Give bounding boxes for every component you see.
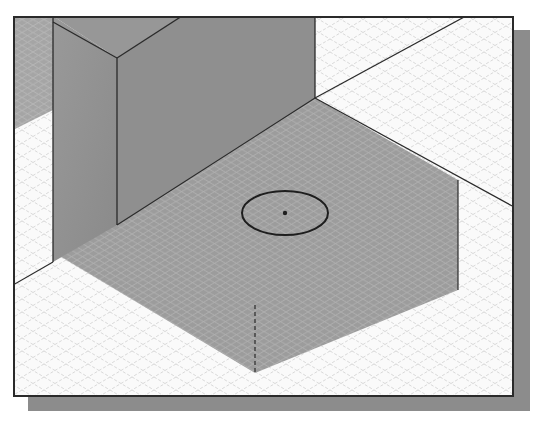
back-shadow-region	[13, 16, 53, 130]
graphics-viewport[interactable]	[13, 16, 514, 397]
model-canvas	[13, 16, 514, 397]
circle-center-point[interactable]	[283, 211, 287, 215]
